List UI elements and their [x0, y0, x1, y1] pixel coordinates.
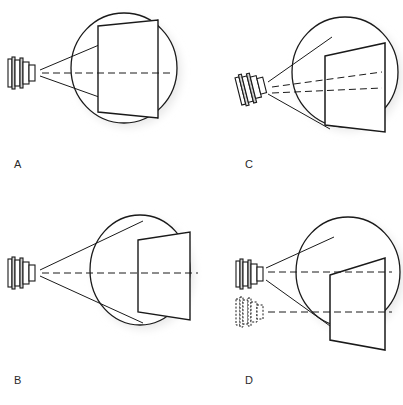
panel-label-a: A: [14, 158, 22, 170]
projection-geometry-figure: A B: [0, 0, 403, 405]
panel-label-c: C: [245, 158, 253, 170]
panel-label-b: B: [14, 374, 22, 386]
screen-c: [325, 43, 385, 132]
screen-a: [98, 20, 158, 118]
panel-label-d: D: [245, 374, 253, 386]
screen-b: [138, 232, 190, 320]
